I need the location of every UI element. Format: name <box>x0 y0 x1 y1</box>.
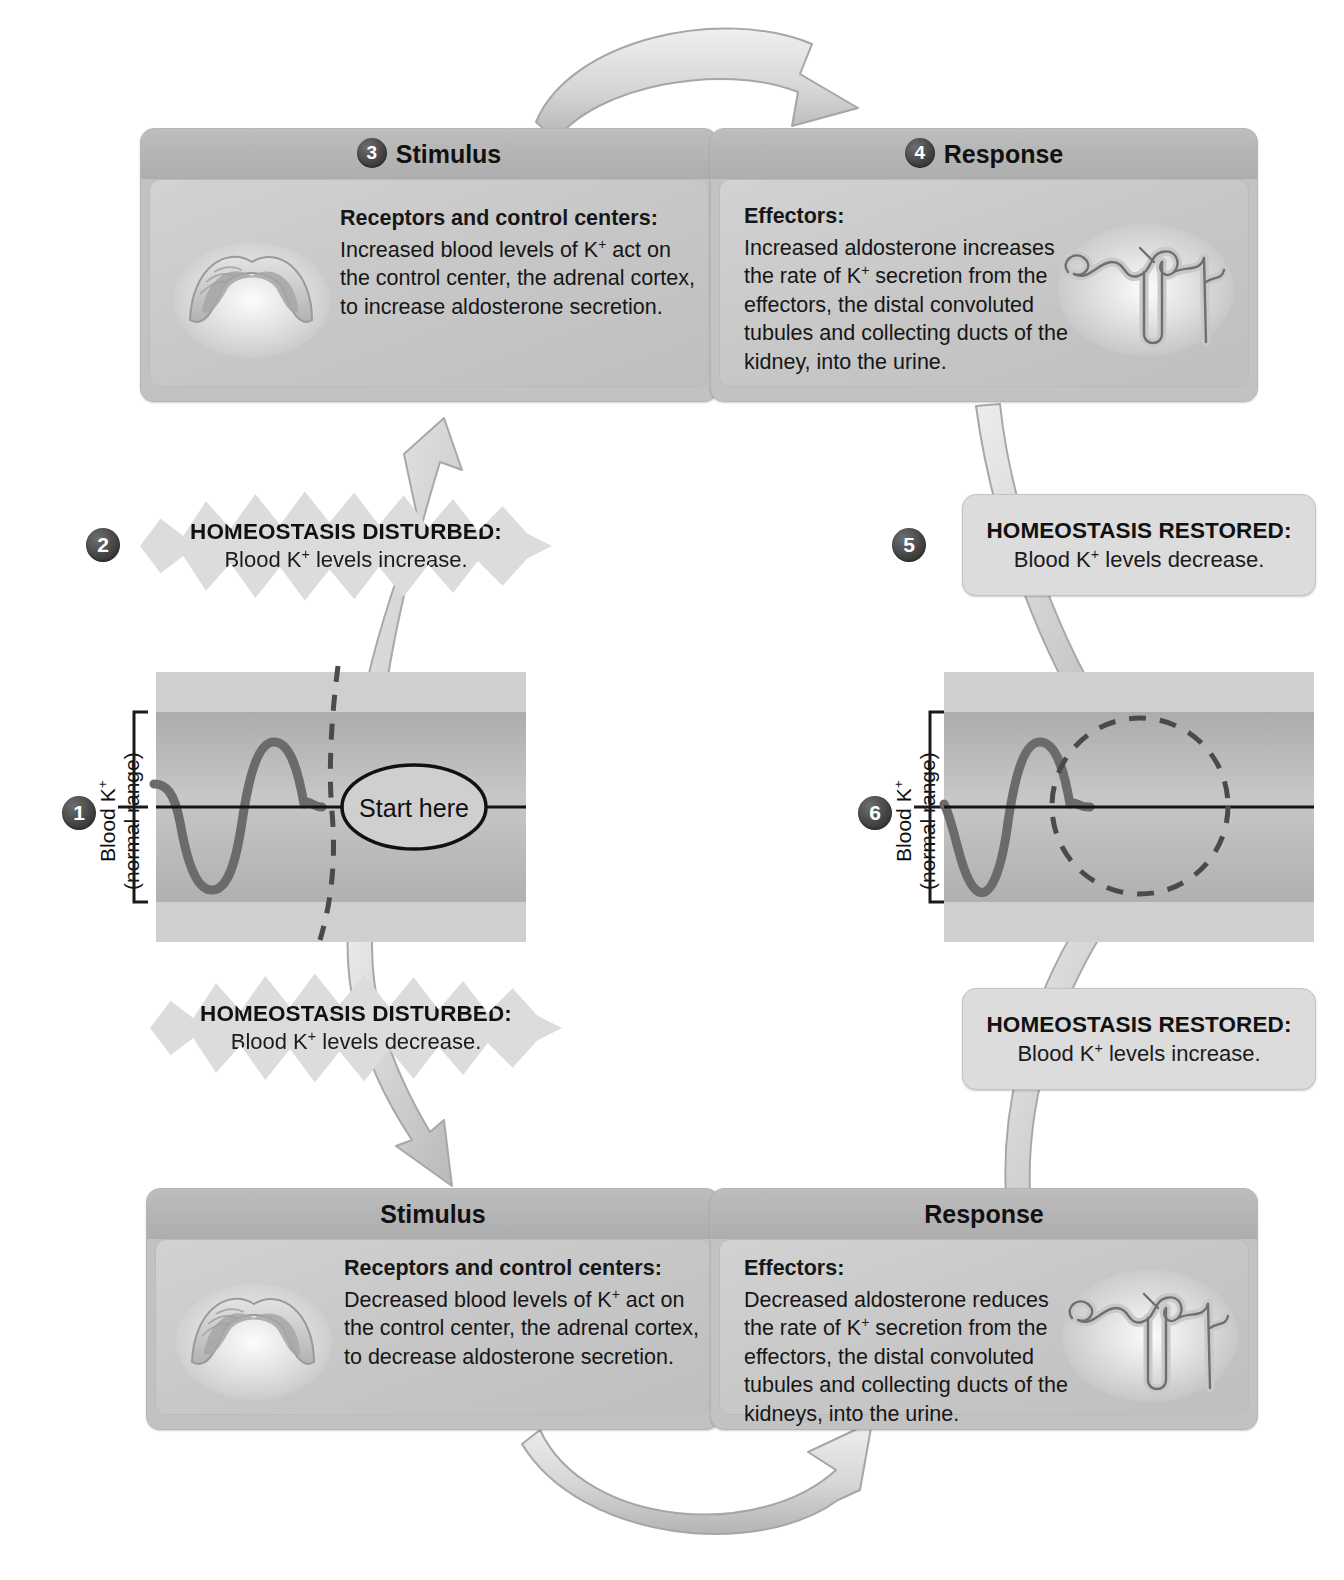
callout-title: HOMEOSTASIS DISTURBED: <box>200 999 512 1028</box>
card-header-label: Stimulus <box>396 140 502 168</box>
start-here-label: Start here <box>359 794 469 822</box>
card-lead: Effectors: <box>744 202 1074 231</box>
nephron-icon <box>1054 218 1234 358</box>
card-bottom-right-response: Response Effectors: Decreased aldosteron… <box>710 1188 1258 1430</box>
homeostasis-diagram: 3Stimulus <box>0 0 1344 1580</box>
callout-subtitle: Blood K+ levels increase. <box>986 1039 1291 1068</box>
card-header: 4Response <box>711 129 1257 179</box>
card-header: 3Stimulus <box>141 129 717 179</box>
card-lead: Receptors and control centers: <box>344 1254 702 1283</box>
card-body: Receptors and control centers: Decreased… <box>155 1239 711 1415</box>
card-text: Receptors and control centers: Increased… <box>340 204 696 321</box>
step-badge-6: 6 <box>858 796 892 830</box>
card-header: Response <box>711 1189 1257 1239</box>
card-lead: Receptors and control centers: <box>340 204 696 233</box>
adrenal-gland-icon <box>172 232 332 362</box>
adrenal-gland-icon <box>174 1274 334 1404</box>
callout-subtitle: Blood K+ levels increase. <box>190 546 502 575</box>
callout-title: HOMEOSTASIS RESTORED: <box>986 1010 1291 1040</box>
callout-subtitle: Blood K+ levels decrease. <box>986 545 1291 574</box>
callout-homeostasis-disturbed-upper: HOMEOSTASIS DISTURBED: Blood K+ levels i… <box>140 484 552 608</box>
callout-title: HOMEOSTASIS RESTORED: <box>986 516 1291 546</box>
callout-subtitle: Blood K+ levels decrease. <box>200 1028 512 1057</box>
nephron-icon <box>1058 1264 1238 1404</box>
card-body-text: Decreased aldosterone reduces the rate o… <box>744 1288 1068 1426</box>
step-badge-2: 2 <box>86 528 120 562</box>
callout-homeostasis-restored-lower: HOMEOSTASIS RESTORED: Blood K+ levels in… <box>962 988 1316 1090</box>
left-graph-panel: Start here <box>156 672 526 942</box>
callout-title: HOMEOSTASIS DISTURBED: <box>190 517 502 546</box>
card-body-text: Decreased blood levels of K+ act on the … <box>344 1288 699 1369</box>
card-body: Effectors: Decreased aldosterone reduces… <box>719 1239 1249 1415</box>
step-badge-1: 1 <box>62 796 96 830</box>
card-text: Effectors: Increased aldosterone increas… <box>744 202 1074 377</box>
step-badge-5: 5 <box>892 528 926 562</box>
card-body-text: Increased aldosterone increases the rate… <box>744 236 1068 374</box>
card-top-left-stimulus: 3Stimulus <box>140 128 718 402</box>
card-header-label: Stimulus <box>380 1200 486 1228</box>
step-badge-4: 4 <box>905 138 935 168</box>
card-top-right-response: 4Response Effectors: Increased aldostero… <box>710 128 1258 402</box>
card-header: Stimulus <box>147 1189 719 1239</box>
step-badge-3: 3 <box>357 138 387 168</box>
card-text: Receptors and control centers: Decreased… <box>344 1254 702 1371</box>
card-body: Receptors and control centers: Increased… <box>149 179 709 387</box>
card-lead: Effectors: <box>744 1254 1080 1283</box>
right-graph-panel <box>944 672 1314 942</box>
callout-homeostasis-restored-upper: HOMEOSTASIS RESTORED: Blood K+ levels de… <box>962 494 1316 596</box>
card-body: Effectors: Increased aldosterone increas… <box>719 179 1249 387</box>
card-body-text: Increased blood levels of K+ act on the … <box>340 238 695 319</box>
card-header-label: Response <box>944 140 1063 168</box>
card-header-label: Response <box>924 1200 1043 1228</box>
card-text: Effectors: Decreased aldosterone reduces… <box>744 1254 1080 1429</box>
arrow-top-arc <box>536 28 858 140</box>
callout-homeostasis-disturbed-lower: HOMEOSTASIS DISTURBED: Blood K+ levels d… <box>150 966 562 1090</box>
arrow-bottom-arc <box>522 1422 872 1534</box>
card-bottom-left-stimulus: Stimulus <box>146 1188 720 1430</box>
